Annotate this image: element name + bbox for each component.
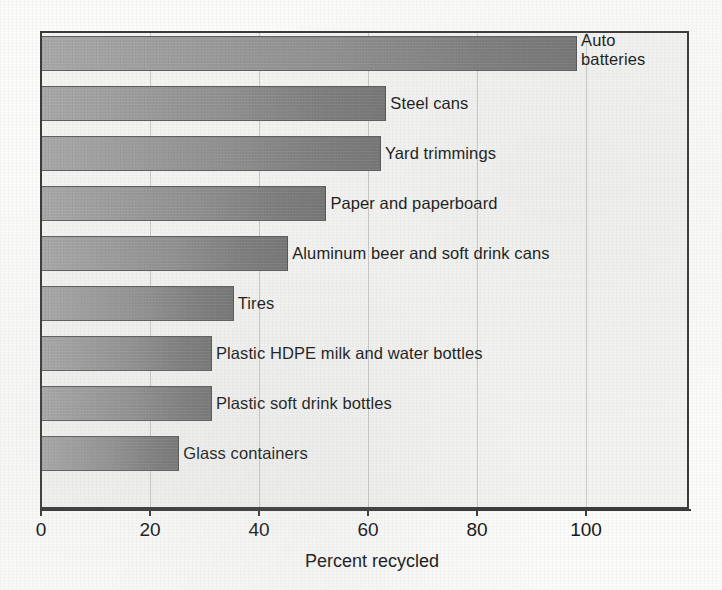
bar bbox=[42, 186, 326, 221]
bar-label: Paper and paperboard bbox=[330, 194, 497, 213]
chart-page: 020406080100 Percent recycled Autobatter… bbox=[0, 0, 722, 590]
bar bbox=[42, 36, 577, 71]
bar-texture bbox=[42, 37, 576, 70]
bar-label: Aluminum beer and soft drink cans bbox=[292, 244, 549, 263]
x-tick-mark bbox=[476, 509, 478, 516]
x-tick-mark bbox=[585, 509, 587, 516]
bar bbox=[42, 386, 212, 421]
bar-label-line: batteries bbox=[581, 50, 645, 69]
gridline bbox=[477, 33, 478, 507]
bar bbox=[42, 86, 386, 121]
x-tick-label: 0 bbox=[36, 519, 47, 541]
bar-label: Autobatteries bbox=[581, 31, 645, 69]
bar bbox=[42, 286, 234, 321]
gridline bbox=[586, 33, 587, 507]
plot-area bbox=[40, 31, 689, 509]
bar-texture bbox=[42, 387, 211, 420]
bar-label: Plastic HDPE milk and water bottles bbox=[216, 344, 483, 363]
x-tick-label: 80 bbox=[466, 519, 487, 541]
bar-texture bbox=[42, 137, 380, 170]
x-tick-label: 40 bbox=[248, 519, 269, 541]
bar-label-line: Auto bbox=[581, 31, 645, 50]
bar-texture bbox=[42, 237, 287, 270]
bar-label: Glass containers bbox=[183, 444, 308, 463]
x-tick-label: 100 bbox=[570, 519, 602, 541]
x-tick-mark bbox=[367, 509, 369, 516]
x-tick-mark bbox=[258, 509, 260, 516]
x-tick-mark bbox=[149, 509, 151, 516]
bar-label: Steel cans bbox=[390, 94, 468, 113]
x-axis-title: Percent recycled bbox=[0, 551, 722, 572]
x-tick-label: 20 bbox=[139, 519, 160, 541]
bar-texture bbox=[42, 437, 178, 470]
bar bbox=[42, 236, 288, 271]
bar-label: Tires bbox=[238, 294, 275, 313]
bar-label: Yard trimmings bbox=[385, 144, 496, 163]
bar bbox=[42, 336, 212, 371]
plot-inner bbox=[42, 33, 687, 507]
bar-texture bbox=[42, 87, 385, 120]
bar-texture bbox=[42, 287, 233, 320]
bar-texture bbox=[42, 337, 211, 370]
bar-texture bbox=[42, 187, 325, 220]
x-axis-line bbox=[40, 509, 691, 511]
x-tick-label: 60 bbox=[357, 519, 378, 541]
bar bbox=[42, 136, 381, 171]
x-tick-mark bbox=[40, 509, 42, 516]
bar bbox=[42, 436, 179, 471]
bar-label: Plastic soft drink bottles bbox=[216, 394, 392, 413]
